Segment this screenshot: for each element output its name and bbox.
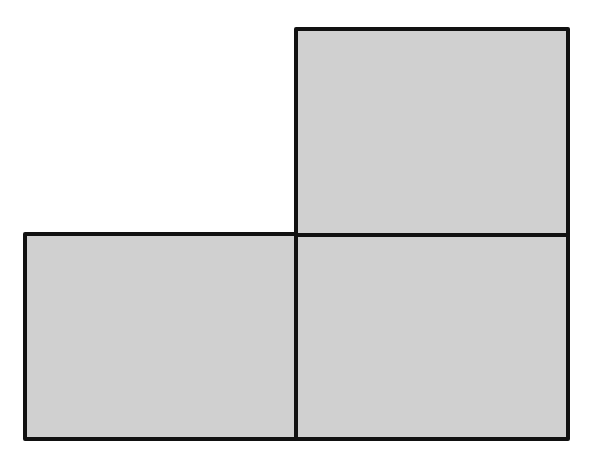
bottom-right-rect bbox=[296, 235, 568, 439]
top-right-rect bbox=[296, 29, 568, 235]
bottom-left-rect bbox=[25, 234, 296, 439]
l-shape-diagram bbox=[0, 0, 597, 466]
